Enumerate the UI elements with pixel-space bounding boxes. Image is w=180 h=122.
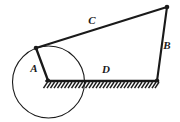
kinematic-diagram-figure: A B C D — [0, 0, 180, 122]
label-link-b: B — [162, 39, 170, 51]
mechanism-drawing: A B C D — [0, 0, 180, 122]
label-link-d: D — [101, 63, 110, 75]
link-a-crank — [36, 48, 48, 81]
label-link-a: A — [29, 62, 37, 74]
ground-hatching — [44, 82, 160, 88]
joint-ground-right — [155, 78, 159, 82]
joint-coupler-left — [34, 46, 39, 51]
joint-ground-left — [46, 78, 50, 82]
label-link-c: C — [88, 14, 96, 26]
link-c-coupler — [36, 7, 167, 48]
joint-coupler-right — [165, 5, 170, 10]
